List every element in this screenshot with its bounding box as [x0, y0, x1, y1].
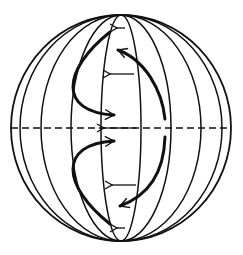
globe-diagram [0, 0, 243, 255]
upper-right-arc-arrow [118, 50, 165, 119]
lower-right-arc-arrow [120, 137, 165, 206]
globe-figure [0, 0, 243, 255]
